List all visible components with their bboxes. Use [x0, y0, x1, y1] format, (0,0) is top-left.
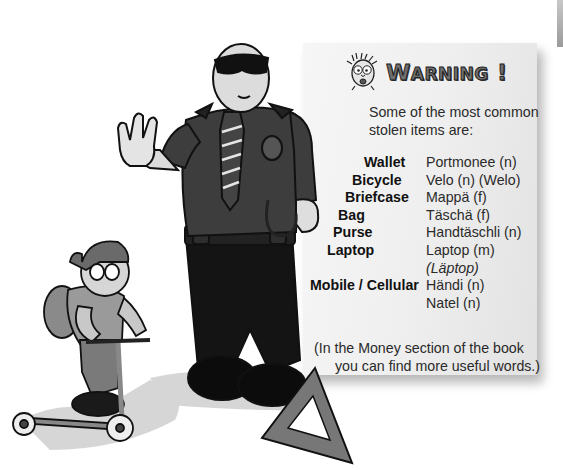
- illustration-layer: [0, 0, 563, 470]
- police-officer: [118, 44, 318, 406]
